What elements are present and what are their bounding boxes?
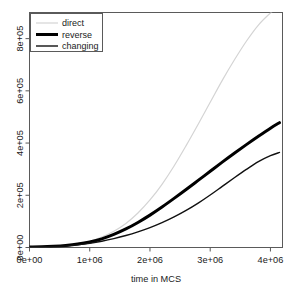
legend-label-reverse: reverse [62, 30, 92, 40]
chart-figure: 0e+002e+054e+056e+058e+05 0e+001e+062e+0… [0, 0, 296, 294]
x-tick-label: 3e+06 [197, 255, 223, 265]
x-tick-label: 0e+00 [17, 255, 43, 265]
x-axis-title: time in MCS [131, 274, 181, 284]
legend-label-direct: direct [62, 18, 85, 28]
y-tick-label: 8e+05 [15, 26, 25, 52]
y-tick-label: 2e+05 [15, 182, 25, 208]
x-tick-label: 2e+06 [137, 255, 163, 265]
y-tick-label: 6e+05 [15, 78, 25, 104]
plot-canvas: 0e+002e+054e+056e+058e+05 0e+001e+062e+0… [0, 0, 296, 294]
legend: directreversechanging [31, 14, 103, 52]
legend-label-changing: changing [62, 41, 99, 51]
x-tick-label: 4e+06 [258, 255, 284, 265]
x-tick-label: 1e+06 [77, 255, 103, 265]
y-tick-label: 4e+05 [15, 130, 25, 156]
